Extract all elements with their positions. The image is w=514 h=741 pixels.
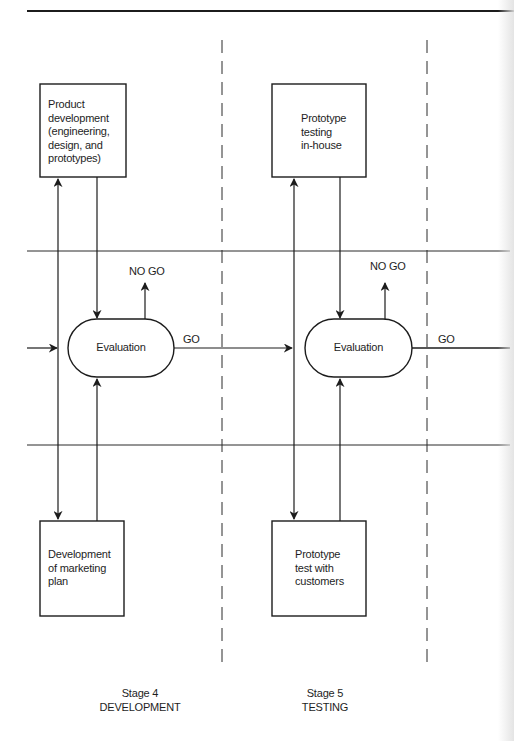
stage-number: Stage 4 bbox=[80, 687, 200, 701]
text-line: plan bbox=[48, 575, 124, 589]
stage-4-caption: Stage 4 DEVELOPMENT bbox=[80, 687, 200, 714]
text-line: Prototype bbox=[295, 548, 365, 562]
text-line: test with bbox=[295, 562, 365, 576]
stage-name: DEVELOPMENT bbox=[80, 701, 200, 715]
go-label-stage5: GO bbox=[438, 333, 455, 347]
label-prototype-testing-in-house: Prototype testing in-house bbox=[301, 112, 365, 153]
label-prototype-test-customers: Prototype test with customers bbox=[295, 548, 365, 589]
text-line: development bbox=[48, 112, 124, 126]
text-line: of marketing bbox=[48, 562, 124, 576]
page-edge-shadow bbox=[498, 0, 514, 741]
text-line: design, and bbox=[48, 139, 124, 153]
no-go-label-stage5: NO GO bbox=[370, 260, 406, 274]
label-marketing-plan: Development of marketing plan bbox=[48, 548, 124, 589]
text-line: Development bbox=[48, 548, 124, 562]
text-line: in-house bbox=[301, 139, 365, 153]
stage-5-caption: Stage 5 TESTING bbox=[275, 687, 375, 714]
evaluation-label-stage5: Evaluation bbox=[305, 341, 412, 355]
text-line: testing bbox=[301, 126, 365, 140]
label-product-development: Product development (engineering, design… bbox=[48, 98, 124, 166]
text-line: (engineering, bbox=[48, 125, 124, 139]
no-go-label-stage4: NO GO bbox=[129, 265, 165, 279]
text-line: Prototype bbox=[301, 112, 365, 126]
text-line: customers bbox=[295, 575, 365, 589]
stage-number: Stage 5 bbox=[275, 687, 375, 701]
go-label-stage4: GO bbox=[183, 333, 200, 347]
evaluation-label-stage4: Evaluation bbox=[68, 341, 174, 355]
text-line: prototypes) bbox=[48, 152, 124, 166]
stage-name: TESTING bbox=[275, 701, 375, 715]
text-line: Product bbox=[48, 98, 124, 112]
